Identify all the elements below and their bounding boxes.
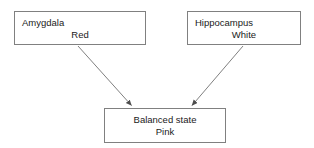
- node-balanced-state-line2: Pink: [105, 126, 225, 138]
- edge-hippocampus-to-balanced: [192, 46, 243, 106]
- node-amygdala-line2: Red: [15, 29, 145, 41]
- node-hippocampus-line1: Hippocampus: [188, 17, 300, 29]
- node-amygdala-line1: Amygdala: [15, 17, 145, 29]
- node-hippocampus-line2: White: [188, 29, 300, 41]
- node-amygdala: Amygdala Red: [14, 11, 146, 45]
- node-balanced-state: Balanced state Pink: [104, 108, 226, 143]
- diagram-canvas: Amygdala Red Hippocampus White Balanced …: [0, 0, 314, 148]
- node-balanced-state-line1: Balanced state: [105, 114, 225, 126]
- edge-amygdala-to-balanced: [78, 46, 132, 106]
- node-hippocampus: Hippocampus White: [187, 11, 301, 45]
